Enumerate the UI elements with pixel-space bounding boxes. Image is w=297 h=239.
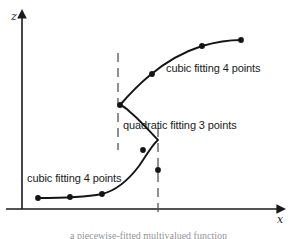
data-point-marker (199, 43, 205, 49)
figure-caption: a piecewise-fitted multivalued function (0, 231, 297, 239)
data-point-marker (238, 37, 244, 43)
label-cubic-lower: cubic fitting 4 points (27, 172, 122, 184)
guide-lines-group (118, 53, 158, 218)
figure-container: z x cubic fitting 4 points quadratic fit… (0, 0, 297, 239)
label-cubic-upper: cubic fitting 4 points (166, 62, 261, 74)
x-axis-label: x (277, 213, 284, 226)
data-point-marker (149, 71, 155, 77)
data-point-marker (140, 147, 146, 153)
z-axis-label: z (10, 10, 17, 23)
data-point-marker (35, 195, 41, 201)
figure-canvas: z x cubic fitting 4 points quadratic fit… (0, 0, 297, 239)
label-quadratic: quadratic fitting 3 points (123, 119, 237, 131)
data-point-marker (67, 194, 73, 200)
data-point-marker (155, 167, 161, 173)
data-point-marker (117, 102, 123, 108)
data-point-marker (99, 191, 105, 197)
